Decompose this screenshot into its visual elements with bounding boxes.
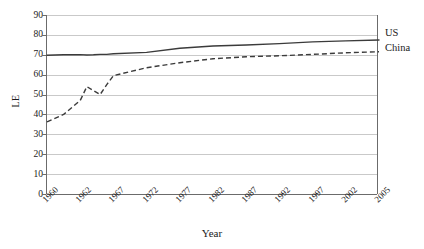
y-tick-label-70: 70 <box>3 50 43 60</box>
y-tick-label-0: 0 <box>3 190 43 200</box>
y-tick-label-30: 30 <box>3 130 43 140</box>
series-label-china: China <box>385 43 410 54</box>
y-tick-label-90: 90 <box>3 11 43 21</box>
y-tick-label-60: 60 <box>3 70 43 80</box>
y-tick-label-80: 80 <box>3 30 43 40</box>
chart-figure: LE 0102030405060708090 19601962196719721… <box>0 0 424 249</box>
plot-area <box>46 15 378 194</box>
x-axis-title: Year <box>0 228 424 239</box>
y-tick-label-10: 10 <box>3 170 43 180</box>
series-label-us: US <box>385 28 398 39</box>
caption-sliver <box>14 240 84 244</box>
y-tick-label-40: 40 <box>3 110 43 120</box>
series-line-china <box>47 52 379 122</box>
y-tick-label-50: 50 <box>3 90 43 100</box>
series-line-us <box>47 40 379 55</box>
series-layer <box>47 15 379 194</box>
y-tick-label-20: 20 <box>3 150 43 160</box>
